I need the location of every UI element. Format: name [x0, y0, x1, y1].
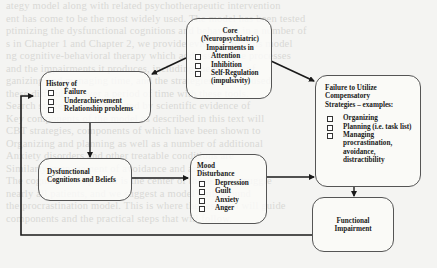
core-title-line: Core [193, 27, 267, 35]
arrow-core-to-history [152, 58, 186, 74]
history-box: History of Failure Underachievement Rela… [40, 71, 151, 123]
failure-title-line: Strategies – examples: [325, 101, 414, 109]
functional-title-line: Functional [315, 217, 391, 225]
functional-title-line: Impairment [315, 225, 391, 233]
core-item: Attention [193, 52, 267, 60]
checkbox-icon [327, 116, 333, 122]
core-item: Self-Regulation (impulsivity) [193, 69, 267, 86]
mood-item: Depression [197, 179, 263, 187]
checkbox-icon [195, 63, 201, 69]
checkbox-icon [48, 99, 54, 105]
mood-title-line: Mood [197, 162, 263, 170]
mood-title-line: Disturbance [197, 170, 263, 178]
core-impairments-box: Core (Neuropsychiatric) Impairments in A… [186, 18, 272, 99]
core-title-line: (Neuropsychiatric) [193, 35, 267, 43]
checkbox-icon [48, 90, 54, 96]
failure-item: Organizing [325, 114, 414, 122]
core-item: Inhibition [193, 61, 267, 69]
dysfunctional-title-line: Dysfunctional [47, 168, 127, 176]
checkbox-icon [195, 54, 201, 60]
checkbox-icon [195, 71, 201, 77]
checkbox-icon [327, 125, 333, 131]
arrow-core-to-failure [271, 61, 314, 81]
history-item: Failure [46, 88, 146, 96]
failure-item: Managing procrastination, avoidance, dis… [325, 131, 414, 165]
mood-item: Guilt [197, 187, 263, 195]
dysfunctional-title-line: Cognitions and Beliefs [47, 176, 127, 184]
checkbox-icon [199, 198, 205, 204]
failure-title-line: Failure to Utilize [325, 84, 414, 92]
functional-impairment-box: Functional Impairment [312, 197, 394, 252]
checkbox-icon [327, 133, 333, 139]
failure-to-utilize-box: Failure to Utilize Compensatory Strategi… [315, 75, 421, 187]
dysfunctional-cognitions-box: Dysfunctional Cognitions and Beliefs [38, 158, 132, 201]
checkbox-icon [199, 189, 205, 195]
checkbox-icon [48, 107, 54, 113]
core-title-line: Impairments in [193, 44, 267, 52]
history-item: Underachievement [46, 97, 146, 105]
checkbox-icon [199, 206, 205, 212]
checkbox-icon [199, 181, 205, 187]
failure-title-line: Compensatory [325, 92, 414, 100]
mood-item: Anxiety [197, 196, 263, 204]
mood-disturbance-box: Mood Disturbance Depression Guilt Anxiet… [190, 154, 267, 224]
history-item: Relationship problems [46, 105, 146, 113]
history-title: History of [46, 80, 146, 88]
mood-item: Anger [197, 204, 263, 212]
failure-item: Planning (i.e. task list) [325, 123, 414, 131]
